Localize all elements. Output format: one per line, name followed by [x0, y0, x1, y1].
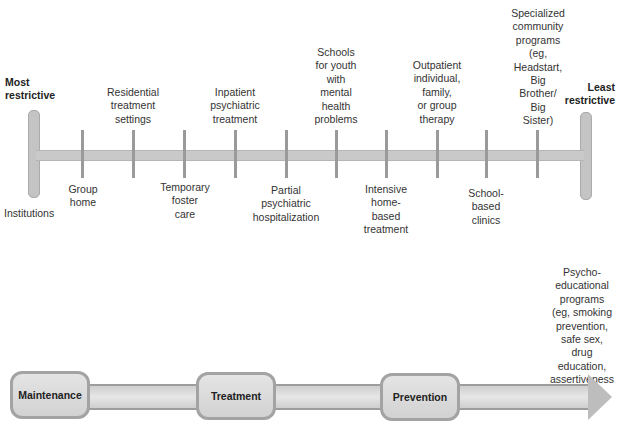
stage-treatment: Treatment [196, 372, 276, 420]
continuum-bar [36, 150, 584, 161]
tick-residential [132, 130, 135, 178]
tick-inpatient [234, 130, 237, 178]
tick-foster-care [183, 130, 186, 178]
label-partial-hospitalization: Partial psychiatric hospitalization [246, 184, 326, 224]
tick-school-clinics [485, 130, 488, 178]
flow-arrow-head [588, 374, 612, 420]
label-school-clinics: School- based clinics [458, 187, 514, 227]
label-intensive-home: Intensive home- based treatment [356, 183, 416, 237]
tick-outpatient [436, 130, 439, 178]
label-inpatient: Inpatient psychiatric treatment [200, 86, 270, 126]
tick-community-programs [536, 130, 539, 178]
most-restrictive-label: Most restrictive [5, 76, 55, 103]
label-residential: Residential treatment settings [98, 86, 168, 126]
tick-schools [335, 130, 338, 178]
flow-arrow-shaft [85, 384, 590, 410]
label-foster-care: Temporary foster care [152, 181, 218, 221]
stage-prevention: Prevention [380, 373, 460, 421]
tick-intensive-home [385, 130, 388, 178]
stage-maintenance: Maintenance [10, 371, 90, 419]
label-outpatient: Outpatient individual, family, or group … [404, 59, 470, 126]
label-institutions: Institutions [4, 207, 54, 220]
tick-partial-hospitalization [285, 130, 288, 178]
tick-group-home [81, 130, 84, 178]
label-group-home: Group home [58, 183, 108, 210]
label-community-programs: Specialized community programs (eg, Head… [505, 7, 571, 128]
label-schools: Schools for youth with mental health pro… [304, 46, 368, 126]
least-restrictive-label: Least restrictive [565, 81, 615, 108]
